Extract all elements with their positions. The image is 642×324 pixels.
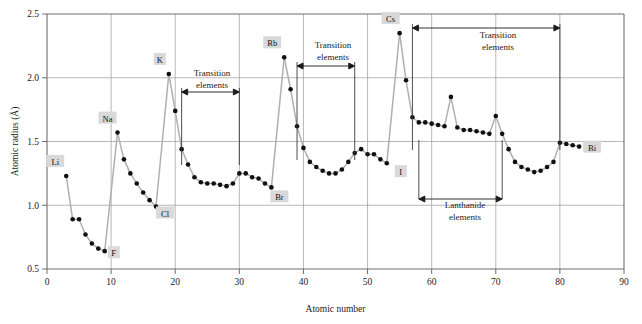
element-label-i: I: [399, 167, 402, 177]
data-point: [256, 176, 261, 181]
data-point: [308, 160, 313, 165]
data-point: [570, 143, 575, 148]
data-point: [205, 181, 210, 186]
x-tick-label: 40: [299, 277, 309, 287]
data-point: [263, 181, 268, 186]
data-curve: [284, 57, 387, 173]
data-point: [481, 130, 486, 135]
data-point: [102, 249, 107, 254]
data-point: [436, 123, 441, 128]
x-tick-label: 30: [235, 277, 245, 287]
element-label-li: Li: [51, 157, 59, 167]
data-point: [423, 120, 428, 125]
annotation-text-line1: Transition: [480, 30, 517, 40]
data-point: [577, 144, 582, 149]
data-point: [70, 217, 75, 222]
x-tick-label: 90: [619, 277, 629, 287]
data-point: [90, 241, 95, 246]
data-curve-connector: [271, 57, 284, 187]
data-point: [167, 72, 172, 77]
data-point: [173, 109, 178, 114]
annotation-text-line2: elements: [317, 52, 349, 62]
data-point: [359, 147, 364, 152]
x-tick-label: 50: [363, 277, 373, 287]
data-point: [417, 120, 422, 125]
data-point: [301, 146, 306, 151]
data-point: [115, 130, 120, 135]
data-point: [83, 232, 88, 237]
data-curve-connector: [156, 74, 169, 207]
data-point: [545, 165, 550, 170]
annotation-arrow-head-left: [297, 63, 303, 69]
annotation-text-line2: elements: [196, 80, 228, 90]
element-label-f: F: [111, 248, 116, 258]
annotation-text-line1: Transition: [194, 68, 231, 78]
chart-canvas: 01020304050607080900.51.01.52.02.5Atomic…: [0, 0, 642, 324]
element-label-cs: Cs: [386, 14, 395, 24]
data-point: [378, 157, 383, 162]
annotation-text-line2: elements: [449, 212, 481, 222]
x-axis-title: Atomic number: [306, 304, 367, 314]
data-point: [237, 171, 242, 176]
y-tick-label: 1.0: [27, 201, 39, 211]
data-point: [519, 165, 524, 170]
data-point: [487, 132, 492, 137]
data-point: [429, 121, 434, 126]
annotation-arrow-head-left: [412, 25, 418, 31]
x-tick-label: 70: [491, 277, 501, 287]
y-tick-label: 2.0: [27, 73, 39, 83]
data-point: [384, 161, 389, 166]
data-point: [186, 162, 191, 167]
annotation-arrow-head-right: [349, 63, 355, 69]
data-point: [199, 180, 204, 185]
x-tick-label: 0: [45, 277, 50, 287]
data-point: [122, 157, 127, 162]
data-point: [372, 152, 377, 157]
data-point: [474, 129, 479, 134]
data-point: [282, 55, 287, 60]
data-point: [320, 169, 325, 174]
data-point: [404, 78, 409, 83]
data-point: [96, 246, 101, 251]
x-tick-label: 10: [106, 277, 116, 287]
y-tick-label: 0.5: [27, 264, 39, 274]
data-point: [346, 160, 351, 165]
annotation-arrow-head-right: [554, 25, 560, 31]
data-point: [397, 31, 402, 36]
data-point: [250, 175, 255, 180]
data-point: [526, 167, 531, 172]
data-point: [141, 190, 146, 195]
data-point: [333, 171, 338, 176]
data-point: [314, 165, 319, 170]
data-curve: [118, 133, 156, 207]
annotation-arrow-head-right: [496, 196, 502, 202]
element-label-k: K: [157, 55, 164, 65]
data-point: [461, 128, 466, 133]
data-point: [64, 174, 69, 179]
data-point: [218, 183, 223, 188]
atomic-radius-chart-figure: 01020304050607080900.51.01.52.02.5Atomic…: [0, 0, 642, 324]
data-point: [365, 152, 370, 157]
annotation-arrow-head-left: [419, 196, 425, 202]
annotation-arrow-head-left: [182, 89, 188, 95]
data-point: [327, 171, 332, 176]
data-point: [128, 171, 133, 176]
data-point: [532, 170, 537, 175]
data-point: [468, 128, 473, 133]
data-point: [211, 181, 216, 186]
data-point: [506, 147, 511, 152]
data-point: [288, 87, 293, 92]
data-point: [513, 160, 518, 165]
annotation-text-line1: Transition: [315, 40, 352, 50]
data-point: [192, 175, 197, 180]
data-point: [269, 185, 274, 190]
data-point: [442, 124, 447, 129]
data-point: [147, 198, 152, 203]
data-point: [243, 171, 248, 176]
x-tick-label: 60: [427, 277, 437, 287]
data-curve: [66, 176, 104, 251]
data-curve: [400, 33, 580, 172]
data-point: [449, 95, 454, 100]
data-point: [500, 132, 505, 137]
data-point: [551, 160, 556, 165]
